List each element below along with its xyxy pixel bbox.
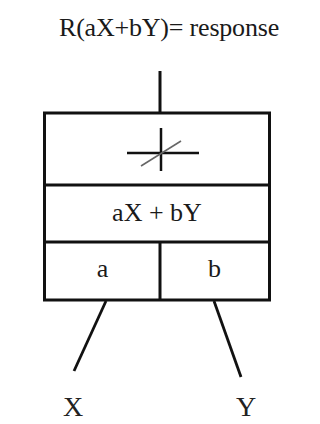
input-line-y xyxy=(214,301,241,377)
input-line-x xyxy=(74,301,106,371)
summation-label: aX + bY xyxy=(46,198,268,228)
input-x-label: X xyxy=(53,392,93,422)
weight-a-label: a xyxy=(46,254,159,284)
weight-b-label: b xyxy=(161,254,268,284)
input-y-label: Y xyxy=(226,392,266,422)
threshold-cross-icon xyxy=(127,128,199,171)
